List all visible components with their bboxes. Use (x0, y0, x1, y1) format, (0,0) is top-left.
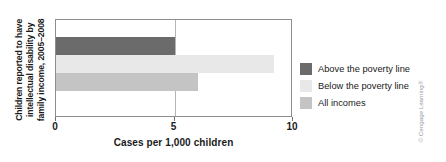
x-tick-label-10: 10 (272, 121, 312, 132)
copyright-credit-text: © Cengage Learning® (418, 80, 425, 142)
x-tick-label-0: 0 (35, 121, 75, 132)
bar-all-incomes (56, 73, 198, 91)
legend-item-below-the-poverty-line: Below the poverty line (300, 78, 430, 94)
legend-item-above-the-poverty-line: Above the poverty line (300, 61, 430, 77)
bar-above-the-poverty-line (56, 37, 175, 55)
legend-label-below: Below the poverty line (318, 81, 409, 91)
legend-label-above: Above the poverty line (318, 64, 410, 74)
x-tick-label-5: 5 (154, 121, 194, 132)
legend-swatch-icon-above (300, 63, 312, 75)
plot-area (55, 19, 292, 117)
copyright-credit: © Cengage Learning® (414, 66, 428, 156)
legend-swatch-icon-all (300, 97, 312, 109)
y-axis-title-line-1: Children reported to have (13, 19, 24, 122)
y-axis-title-line-2: intellectual disability by (24, 19, 35, 122)
bar-below-the-poverty-line (56, 55, 274, 73)
legend-label-all: All incomes (318, 98, 366, 108)
bar-chart-figure: Children reported to have intellectual d… (0, 0, 446, 162)
legend-swatch-icon-below (300, 80, 312, 92)
bar-group (56, 37, 291, 93)
x-axis-title: Cases per 1,000 children (55, 137, 292, 148)
legend: Above the poverty line Below the poverty… (300, 61, 430, 112)
y-axis-title: Children reported to have intellectual d… (6, 0, 54, 140)
legend-item-all-incomes: All incomes (300, 95, 430, 111)
y-axis-title-line-3: family income, 2005–2008 (36, 19, 47, 122)
